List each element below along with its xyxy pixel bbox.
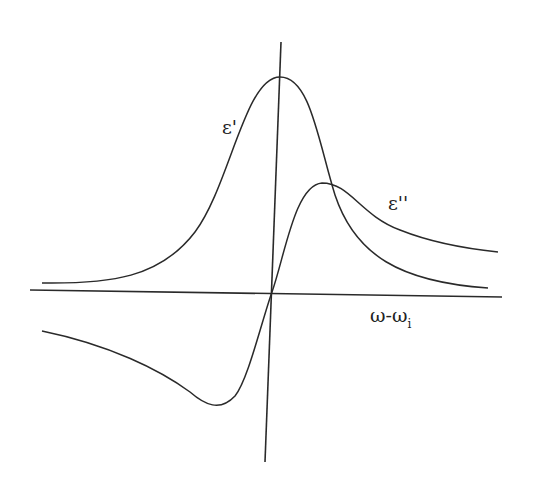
- x-axis-label-main: ω-ω: [370, 304, 407, 326]
- x-axis: [30, 290, 502, 297]
- dielectric-plot: [0, 0, 533, 485]
- diagram: ε' ε'' ω-ωi: [0, 0, 533, 485]
- x-axis-label: ω-ωi: [370, 304, 411, 331]
- x-axis-label-subscript: i: [407, 317, 411, 331]
- epsilon-double-prime-label: ε'': [388, 192, 408, 214]
- epsilon-prime-label: ε': [222, 116, 237, 138]
- y-axis: [265, 42, 281, 462]
- epsilon-prime-curve: [42, 77, 488, 288]
